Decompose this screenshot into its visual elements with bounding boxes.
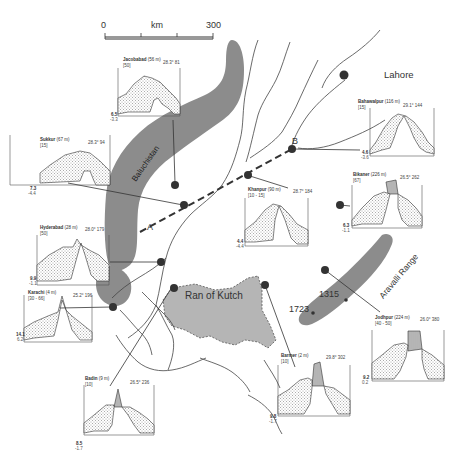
station-name: Bahawalpur (358, 99, 384, 104)
station-name: Barmer (281, 353, 297, 358)
climate-chart-karachi (24, 295, 92, 342)
station-climate-values: 28.3° 94 (88, 140, 105, 145)
climate-chart-hyderabad (37, 235, 109, 285)
station-climate-values: 28.3° 81 (163, 60, 180, 65)
elevation-label-1315: 1315 (319, 289, 339, 299)
elevation-label-1723: 1723 (289, 304, 309, 314)
station-name: Karachi (28, 290, 45, 295)
station-years: [10] (85, 382, 93, 387)
axis-min: -3.6 (361, 155, 369, 160)
station-altitude: (224 m) (394, 315, 410, 320)
station-climate-values: 29.8° 302 (326, 355, 345, 360)
station-altitude: (2 m) (298, 353, 309, 358)
station-altitude: (226 m) (371, 172, 387, 177)
station-name: Hyderabad (40, 225, 63, 230)
station-years: [15] (358, 105, 366, 110)
place-label-lahore: Lahore (384, 69, 414, 80)
ran-of-kutch (163, 276, 276, 348)
station-name: Jodhpur (375, 315, 393, 320)
station-name: Badin (85, 376, 98, 381)
station-altitude: (9 m) (99, 376, 110, 381)
station-altitude: (90 m) (268, 187, 281, 192)
axis-min: -1.7 (75, 446, 83, 451)
station-name: Sukkur (40, 137, 55, 142)
transect-label-a: A (147, 222, 153, 232)
climate-chart-khanpur (245, 198, 308, 246)
station-years: [15] (40, 143, 48, 148)
station-climate-values: 25.2° 196 (73, 293, 92, 298)
station-climate-values: 28.0° 179 (85, 227, 104, 232)
scale-unit-label: km (151, 20, 163, 30)
station-years: [50] (40, 231, 48, 236)
axis-min: -3.3 (110, 117, 118, 122)
station-years: [50] (123, 63, 131, 68)
climate-chart-jodhpur (372, 330, 444, 381)
axis-min: -4.4 (236, 244, 244, 249)
station-climate-values: 26.5° 236 (130, 380, 149, 385)
scale-bar (105, 33, 213, 39)
station-climate-values: 29.1° 144 (403, 103, 422, 108)
station-climate-values: 26.5° 262 (400, 175, 419, 180)
station-altitude: (116 m) (385, 99, 400, 104)
station-climate-values: 26.0° 380 (420, 317, 439, 322)
station-name: Jacobabad (123, 57, 147, 62)
climate-chart-bikaner (352, 180, 422, 228)
station-altitude: (4 m) (46, 290, 57, 295)
station-altitude: (56 m) (148, 57, 161, 62)
axis-min: -4.4 (28, 191, 36, 196)
axis-min: 6.2 (17, 337, 23, 342)
station-name: Bikaner (353, 172, 370, 177)
place-label-ran-of-kutch: Ran of Kutch (185, 290, 243, 301)
station-years: [10 - 15] (248, 193, 265, 198)
station-climate-values: 28.7° 184 (293, 189, 312, 194)
transect-label-b: B (292, 136, 298, 146)
scale-end-label: 300 (206, 20, 221, 30)
axis-min: -1.7 (269, 419, 277, 424)
scale-start-label: 0 (101, 20, 106, 30)
climate-chart-jacobabad (118, 68, 180, 116)
axis-min: -1.1 (342, 228, 350, 233)
climate-chart-barmer (278, 362, 350, 416)
station-altitude: (28 m) (65, 225, 78, 230)
axis-min: -1.1 (29, 281, 37, 286)
station-years: [40 - 50] (375, 321, 392, 326)
axis-min: 0.2 (362, 380, 368, 385)
station-years: [10] (281, 359, 289, 364)
station-name: Khanpur (248, 187, 267, 192)
station-years: [30 - 66] (28, 296, 45, 301)
station-altitude: (67 m) (57, 137, 70, 142)
climate-chart-bahawalpur (370, 108, 434, 156)
station-years: [67] (353, 178, 361, 183)
climate-chart-badin (84, 385, 154, 435)
